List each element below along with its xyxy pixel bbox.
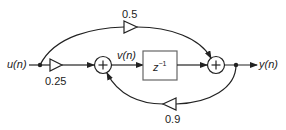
diagram-graphics [0,0,286,130]
feedback-arc-right [176,65,236,104]
delay-label: z−1 [153,60,166,73]
signal-flow-diagram: u(n) 0.25 0.5 v(n) z−1 y(n) 0.9 [0,0,286,130]
gain-0.5-triangle [124,21,137,33]
gain-0.9-label: 0.9 [165,114,180,125]
gain-0.5-label: 0.5 [122,9,137,20]
intermediate-label: v(n) [117,50,136,61]
feedforward-arc-left [40,27,124,65]
input-label: u(n) [7,59,27,70]
gain-0.25-triangle [50,59,62,71]
delay-exponent: −1 [159,60,167,67]
gain-0.9-triangle [163,98,176,110]
output-label: y(n) [259,59,278,70]
gain-0.25-label: 0.25 [45,76,66,87]
